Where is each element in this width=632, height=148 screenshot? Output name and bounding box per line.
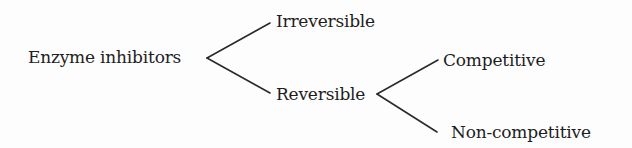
root-branch bbox=[207, 23, 270, 93]
node-reversible: Reversible bbox=[276, 84, 365, 104]
reversible-branch bbox=[377, 60, 438, 132]
node-non-competitive: Non-competitive bbox=[451, 122, 591, 142]
connector-reversible-to-non-competitive bbox=[377, 94, 437, 132]
node-enzyme-inhibitors: Enzyme inhibitors bbox=[28, 47, 181, 67]
connector-root-to-irreversible bbox=[207, 23, 270, 58]
node-irreversible: Irreversible bbox=[276, 11, 375, 31]
node-competitive: Competitive bbox=[443, 50, 545, 70]
classification-diagram: Enzyme inhibitors Irreversible Reversibl… bbox=[0, 0, 632, 148]
connector-reversible-to-competitive bbox=[377, 60, 438, 94]
connector-root-to-reversible bbox=[207, 58, 270, 93]
